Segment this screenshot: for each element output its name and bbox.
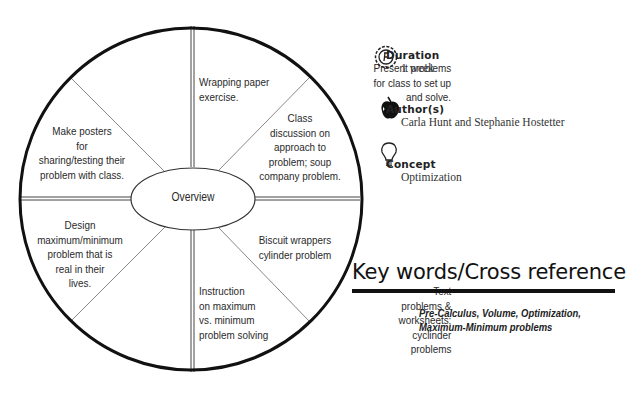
- segment-line: vs. minimum: [199, 313, 268, 328]
- keywords-heading: Key words/Cross reference: [352, 260, 626, 284]
- segment-line: company problem.: [257, 169, 343, 184]
- segment-line: Design: [37, 218, 123, 233]
- segment-make-posters: Make posters for sharing/testing their p…: [30, 124, 133, 182]
- keywords-underline: [352, 289, 615, 293]
- overview-label: Overview: [160, 190, 225, 204]
- segment-line: Biscuit wrappers: [252, 233, 338, 248]
- duration-heading: Duration: [386, 49, 439, 61]
- duration-value: 1 week: [401, 62, 439, 74]
- segment-line: Make posters: [30, 124, 133, 139]
- segment-wrapping-paper: Wrapping paper exercise.: [199, 75, 269, 104]
- concept-heading: Concept: [386, 158, 462, 170]
- segment-line: problems: [398, 342, 451, 357]
- segment-line: for class to set up: [373, 76, 451, 91]
- segment-line: maximum/minimum: [37, 233, 123, 248]
- keywords-line: Pre-Calculus, Volume, Optimization,: [419, 306, 581, 320]
- segment-line: Instruction: [199, 284, 268, 299]
- segment-line: cylinder problem: [252, 248, 338, 263]
- segment-line: discussion on: [257, 126, 343, 141]
- segment-line: Class: [257, 111, 343, 126]
- segment-line: for: [30, 139, 133, 154]
- segment-line: lives.: [37, 276, 123, 291]
- segment-line: problem; soup: [257, 155, 343, 170]
- segment-line: problem with class.: [30, 168, 133, 183]
- keywords-list: Pre-Calculus, Volume, Optimization, Maxi…: [419, 306, 581, 334]
- segment-biscuit-wrappers: Biscuit wrappers cylinder problem: [252, 233, 338, 262]
- segment-instruction: Instruction on maximum vs. minimum probl…: [199, 284, 268, 342]
- duration-block: Duration 1 week: [386, 49, 439, 74]
- concept-block: Concept Optimization: [386, 158, 462, 183]
- segment-design-problem: Design maximum/minimum problem that is r…: [37, 218, 123, 291]
- segment-line: problem solving: [199, 328, 268, 343]
- authors-value: Carla Hunt and Stephanie Hostetter: [401, 116, 565, 128]
- segment-class-discussion: Class discussion on approach to problem;…: [257, 111, 343, 184]
- keywords-line: Maximum-Minimum problems: [419, 320, 581, 334]
- segment-line: approach to: [257, 140, 343, 155]
- segment-line: Wrapping paper: [199, 75, 269, 90]
- segment-line: problem that is: [37, 247, 123, 262]
- segment-line: sharing/testing their: [30, 153, 133, 168]
- authors-block: Author(s) Carla Hunt and Stephanie Hoste…: [386, 103, 565, 128]
- segment-line: real in their: [37, 262, 123, 277]
- authors-heading: Author(s): [386, 103, 565, 115]
- concept-value: Optimization: [401, 171, 462, 183]
- segment-line: on maximum: [199, 299, 268, 314]
- segment-line: exercise.: [199, 90, 269, 105]
